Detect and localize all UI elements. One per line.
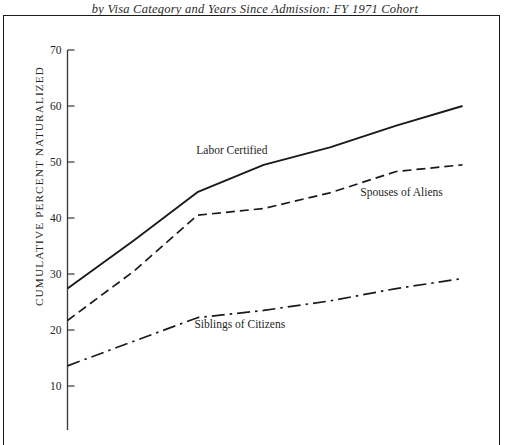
y-tick-label: 10 <box>50 380 62 392</box>
series-label-siblings-of-citizens: Siblings of Citizens <box>194 318 285 331</box>
y-axis-ticks <box>68 50 75 386</box>
series-label-labor-certified: Labor Certified <box>196 144 267 156</box>
y-tick-label: 40 <box>50 212 62 224</box>
y-tick-label: 60 <box>50 100 62 112</box>
y-tick-label: 50 <box>50 156 62 168</box>
y-tick-label: 70 <box>50 44 62 56</box>
series-label-spouses-of-aliens: Spouses of Aliens <box>360 186 443 199</box>
y-axis-tick-labels: 10203040506070 <box>50 44 62 392</box>
y-tick-label: 20 <box>50 324 62 336</box>
y-tick-label: 30 <box>50 268 62 280</box>
